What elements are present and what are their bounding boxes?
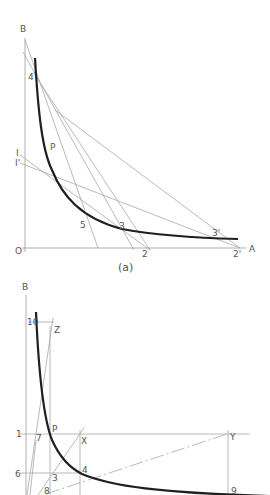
hyperbola-curve-b [36,312,270,495]
label-a: A [249,244,256,254]
label-3-b: 3 [52,473,58,483]
figure-a-caption: (a) [118,261,133,274]
label-y: Y [229,432,236,442]
label-b-b: B [22,282,28,292]
label-5: 5 [80,220,86,230]
figure-b: B 10 Z 1 7 P X Y 6 3 4 8 9 [15,282,270,495]
label-3-prime: 3' [212,228,220,238]
label-p: P [50,142,56,152]
label-10: 10 [27,317,39,327]
label-9: 9 [231,486,237,495]
label-3: 3 [119,221,125,231]
hyperbola-curve-a [35,58,238,239]
label-7: 7 [36,433,42,443]
label-p-b: P [52,424,58,434]
line-I-to-2 [20,155,150,250]
label-8: 8 [44,486,50,495]
line-z-to-origin [27,318,53,495]
label-2: 2 [142,249,148,259]
label-2-prime: 2' [233,249,241,259]
line-4-to-3 [33,72,150,250]
label-b: B [20,24,26,34]
label-i-prime: I' [15,158,20,168]
figure-a: B 4 I I' P 5 3 3' 2 2' A O (a) [15,24,256,274]
hyperbola-construction-diagram: B 4 I I' P 5 3 3' 2 2' A O (a) B 10 [0,0,270,495]
label-6: 6 [15,469,21,479]
label-z: Z [54,325,60,335]
label-x: X [81,436,87,446]
label-i: I [16,148,19,158]
line-x-to-8 [38,428,84,495]
label-1: 1 [16,429,22,439]
label-4-b: 4 [82,465,88,475]
label-o: O [15,246,22,256]
line-8-to-y [46,433,230,494]
label-4: 4 [28,72,34,82]
